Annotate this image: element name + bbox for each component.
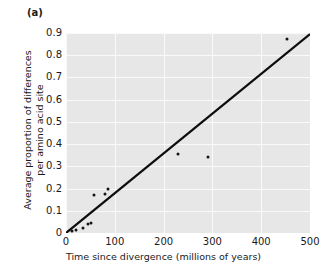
y-tick-label: 0.1 (46, 206, 62, 216)
y-tick-label: 0.2 (46, 184, 62, 194)
data-point (106, 188, 109, 191)
data-points (66, 33, 310, 233)
x-axis-tick-labels: 0100200300400500 (66, 236, 310, 250)
y-axis-tick-labels: 00.10.20.30.40.50.60.70.80.9 (36, 28, 62, 238)
y-tick-label: 0.6 (46, 95, 62, 105)
data-point (104, 193, 107, 196)
x-tick-label: 500 (300, 236, 319, 247)
y-tick-label: 0.9 (46, 28, 62, 38)
panel-label: (a) (27, 7, 43, 19)
x-axis-title: Time since divergence (millions of years… (0, 251, 327, 263)
figure-panel-a: (a) Average proportion of differences pe… (0, 0, 327, 276)
data-point (74, 229, 77, 232)
y-tick-label: 0 (56, 228, 62, 238)
data-point (177, 152, 180, 155)
data-point (285, 38, 288, 41)
y-tick-label: 0.8 (46, 50, 62, 60)
data-point (206, 155, 209, 158)
x-tick-label: 200 (154, 236, 173, 247)
y-tick-label: 0.3 (46, 161, 62, 171)
y-tick-label: 0.7 (46, 72, 62, 82)
data-point (70, 230, 73, 233)
data-point (82, 227, 85, 230)
data-point (90, 222, 93, 225)
x-tick-label: 400 (252, 236, 271, 247)
y-tick-label: 0.4 (46, 139, 62, 149)
y-axis-title-line-1: Average proportion of differences (22, 50, 34, 209)
x-tick-label: 300 (203, 236, 222, 247)
data-point (92, 193, 95, 196)
x-tick-label: 100 (105, 236, 124, 247)
x-tick-label: 0 (63, 236, 69, 247)
plot-area (66, 33, 310, 233)
y-tick-label: 0.5 (46, 117, 62, 127)
